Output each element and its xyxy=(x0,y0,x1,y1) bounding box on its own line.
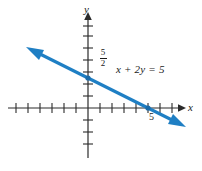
coordinate-plane xyxy=(0,0,202,171)
y-intercept-point xyxy=(85,75,90,80)
equation-label: x + 2y = 5 xyxy=(116,64,165,75)
y-intercept-numerator: 5 xyxy=(97,48,109,57)
x-intercept-label: 5 xyxy=(149,112,154,122)
y-axis-label: y xyxy=(84,4,89,15)
y-intercept-label: 5 2 xyxy=(97,48,109,69)
x-intercept-point xyxy=(145,105,150,110)
graph-figure: x y x + 2y = 5 5 2 5 xyxy=(0,0,202,171)
y-intercept-denominator: 2 xyxy=(97,59,109,68)
line-arrowhead-lower-right xyxy=(168,114,186,127)
line-arrowhead-upper-left xyxy=(26,47,44,60)
x-axis-arrowhead xyxy=(178,104,186,112)
x-axis-label: x xyxy=(188,102,193,113)
